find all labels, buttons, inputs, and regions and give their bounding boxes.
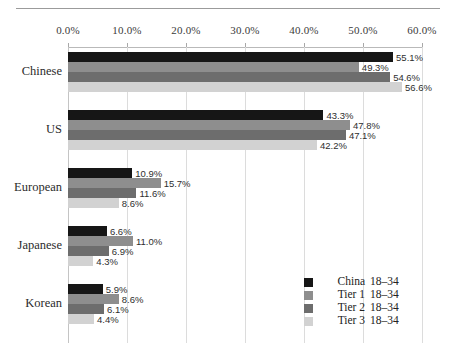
bar-value-label: 11.0% — [136, 237, 162, 247]
x-axis-tick-label: 40.0% — [289, 24, 318, 36]
legend-series-name: China — [318, 275, 365, 287]
bar-value-label: 6.9% — [112, 247, 134, 257]
legend-color-swatch — [304, 304, 313, 313]
legend-series-name: Tier 1 — [318, 288, 365, 300]
legend-age-range: 18–34 — [370, 288, 399, 300]
bar-value-label: 6.1% — [107, 305, 129, 315]
bar — [68, 130, 346, 140]
bar — [68, 236, 133, 246]
category-label: Korean — [0, 296, 62, 311]
bar-value-label: 15.7% — [164, 179, 191, 189]
bar-value-label: 47.1% — [349, 131, 376, 141]
bar-value-label: 47.8% — [353, 121, 380, 131]
bar — [68, 82, 402, 92]
bar — [68, 72, 390, 82]
bar-value-label: 4.4% — [97, 315, 119, 325]
category-label: European — [0, 180, 62, 195]
x-axis-tick-label: 10.0% — [112, 24, 141, 36]
chart-figure: 0.0%10.0%20.0%30.0%40.0%50.0%60.0% 55.1%… — [0, 0, 452, 352]
category-label: Japanese — [0, 238, 62, 253]
legend-color-swatch — [304, 278, 313, 287]
bar-value-label: 10.9% — [135, 169, 162, 179]
bar — [68, 226, 107, 236]
bar — [68, 62, 359, 72]
bar — [68, 120, 350, 130]
bar-value-label: 11.6% — [139, 189, 165, 199]
legend-age-range: 18–34 — [370, 301, 399, 313]
x-axis-tick-label: 0.0% — [56, 24, 80, 36]
header-divider — [16, 8, 440, 9]
x-axis-tick-label: 20.0% — [171, 24, 200, 36]
bar-value-label: 6.6% — [110, 227, 132, 237]
axis-tick-mark — [363, 43, 364, 47]
legend-color-swatch — [304, 291, 313, 300]
category-label: US — [0, 122, 62, 137]
legend-color-swatch — [304, 317, 313, 326]
legend: China18–34Tier 118–34Tier 218–34Tier 318… — [304, 276, 416, 328]
bar-value-label: 54.6% — [393, 73, 420, 83]
axis-tick-mark — [422, 43, 423, 47]
bar-value-label: 49.3% — [362, 63, 389, 73]
bar — [68, 256, 93, 266]
bar-value-label: 5.9% — [106, 285, 128, 295]
x-axis-tick-labels: 0.0%10.0%20.0%30.0%40.0%50.0%60.0% — [0, 24, 452, 40]
bar — [68, 314, 94, 324]
axis-tick-mark — [68, 43, 69, 47]
x-axis-tick-label: 50.0% — [348, 24, 377, 36]
legend-age-range: 18–34 — [370, 314, 399, 326]
bar — [68, 140, 317, 150]
axis-tick-mark — [186, 43, 187, 47]
bar-value-label: 8.6% — [122, 295, 144, 305]
bar — [68, 198, 119, 208]
bar-value-label: 56.6% — [405, 83, 432, 93]
bar — [68, 188, 136, 198]
axis-tick-mark — [245, 43, 246, 47]
bar — [68, 52, 393, 62]
bar — [68, 284, 103, 294]
bar — [68, 168, 132, 178]
bar-value-label: 42.2% — [320, 141, 347, 151]
legend-age-range: 18–34 — [370, 275, 399, 287]
category-label: Chinese — [0, 64, 62, 79]
bar-value-label: 4.3% — [96, 257, 118, 267]
legend-series-name: Tier 2 — [318, 301, 365, 313]
bar — [68, 178, 161, 188]
legend-series-name: Tier 3 — [318, 314, 365, 326]
bar — [68, 294, 119, 304]
axis-tick-mark — [127, 43, 128, 47]
bar — [68, 304, 104, 314]
bar — [68, 110, 323, 120]
axis-tick-mark — [304, 43, 305, 47]
x-axis-tick-label: 30.0% — [230, 24, 259, 36]
bar — [68, 246, 109, 256]
bar-value-label: 43.3% — [326, 111, 353, 121]
bar-value-label: 55.1% — [396, 53, 423, 63]
x-axis-tick-label: 60.0% — [407, 24, 436, 36]
bar-value-label: 8.6% — [122, 199, 144, 209]
